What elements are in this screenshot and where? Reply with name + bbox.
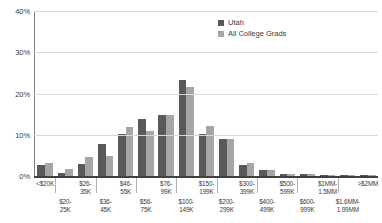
gridline <box>34 94 378 95</box>
bar-all-college-grads <box>166 115 174 176</box>
x-axis-tick <box>217 178 218 193</box>
bar-utah <box>118 134 126 176</box>
bar-chart: 0%10%20%30%40% UtahAll College Grads <$2… <box>0 0 382 223</box>
y-axis-tick-label: 30% <box>15 48 30 57</box>
bar-utah <box>259 170 267 176</box>
bar-all-college-grads <box>106 156 114 176</box>
bar-all-college-grads <box>307 174 315 176</box>
bar-utah <box>138 119 146 176</box>
y-axis-tick-label: 40% <box>15 7 30 16</box>
bar-utah <box>340 175 348 177</box>
chart-legend: UtahAll College Grads <box>218 17 286 39</box>
bar-all-college-grads <box>186 87 194 176</box>
legend-item: All College Grads <box>218 28 286 39</box>
bar-all-college-grads <box>45 163 53 176</box>
y-axis-tick-label: 10% <box>15 130 30 139</box>
x-axis-tick-label: >$2MM <box>341 180 382 188</box>
bar-utah <box>37 165 45 176</box>
x-axis-tick <box>176 178 177 193</box>
gridline <box>34 11 378 12</box>
gridline <box>34 52 378 53</box>
bar-all-college-grads <box>328 175 336 177</box>
x-axis: <$20K$20-25K$26-35K$36-45K$46-55K$56-75K… <box>35 177 378 223</box>
legend-label: Utah <box>228 17 244 28</box>
bar-utah <box>280 174 288 176</box>
x-axis-tick <box>257 178 258 193</box>
bar-all-college-grads <box>227 139 235 176</box>
bar-utah <box>199 134 207 176</box>
bar-utah <box>320 175 328 177</box>
y-axis-tick-label: 20% <box>15 89 30 98</box>
bar-utah <box>58 173 66 176</box>
bar-utah <box>179 80 187 176</box>
bar-utah <box>239 165 247 176</box>
x-axis-tick <box>136 178 137 193</box>
legend-item: Utah <box>218 17 286 28</box>
legend-swatch-icon <box>218 20 224 26</box>
y-axis: 0%10%20%30%40% <box>0 0 30 223</box>
bar-utah <box>219 139 227 176</box>
bar-utah <box>98 144 106 176</box>
bar-utah <box>360 175 368 177</box>
x-axis-tick-label: $1.6MM-1.99MM <box>320 198 374 213</box>
x-axis-tick <box>96 178 97 193</box>
legend-swatch-icon <box>218 31 224 37</box>
bar-all-college-grads <box>348 175 356 177</box>
bar-all-college-grads <box>65 169 73 176</box>
x-axis-tick <box>55 178 56 193</box>
legend-label: All College Grads <box>228 28 286 39</box>
bar-all-college-grads <box>146 131 154 176</box>
x-axis-tick <box>297 178 298 193</box>
bar-utah <box>300 174 308 176</box>
bar-all-college-grads <box>206 126 214 176</box>
bar-utah <box>158 115 166 176</box>
x-axis-tick <box>338 178 339 193</box>
bar-all-college-grads <box>85 157 93 176</box>
gridline <box>34 135 378 136</box>
bar-all-college-grads <box>267 170 275 176</box>
bar-all-college-grads <box>287 174 295 176</box>
bar-all-college-grads <box>247 163 255 176</box>
bar-all-college-grads <box>368 175 376 177</box>
bar-utah <box>78 164 86 176</box>
